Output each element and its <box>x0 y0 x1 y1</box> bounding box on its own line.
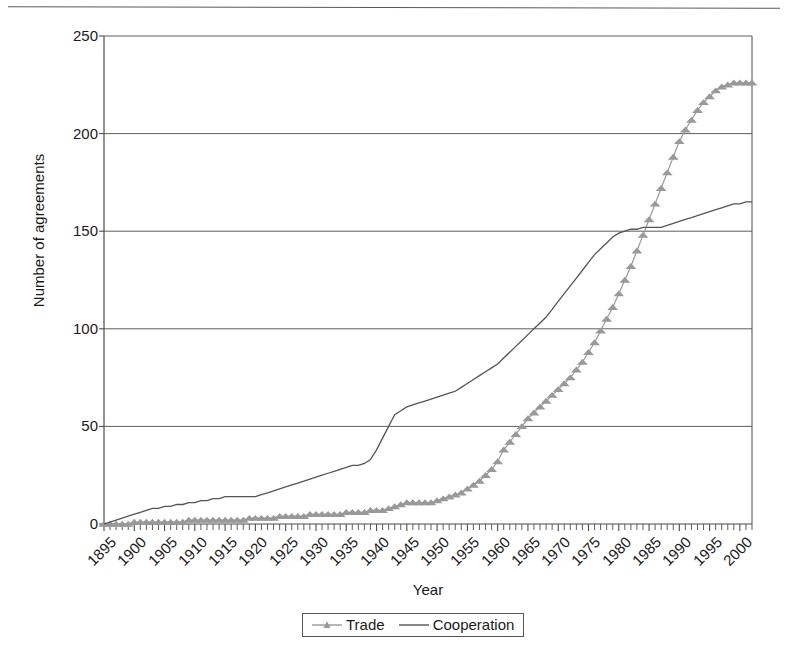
x-tick-label: 1910 <box>172 534 209 571</box>
x-tick-label: 1940 <box>354 534 391 571</box>
x-tick-label: 1995 <box>687 534 724 571</box>
x-axis-title: Year <box>104 581 752 598</box>
legend-item-cooperation[interactable]: Cooperation <box>399 617 515 632</box>
legend-key-trade-icon <box>312 619 342 631</box>
x-tick-label: 1905 <box>142 534 179 571</box>
x-tick-label: 1935 <box>323 534 360 571</box>
x-tick-label: 1960 <box>475 534 512 571</box>
x-tick-label: 1925 <box>263 534 300 571</box>
x-tick-label: 1930 <box>293 534 330 571</box>
y-axis-title: Number of agreements <box>30 131 47 331</box>
x-tick-label: 2000 <box>717 534 754 571</box>
x-tick-label: 1975 <box>566 534 603 571</box>
x-tick-label: 1950 <box>414 534 451 571</box>
x-tick-label: 1965 <box>505 534 542 571</box>
legend-key-cooperation-icon <box>399 619 429 631</box>
x-tick-label: 1970 <box>535 534 572 571</box>
x-tick-label: 1985 <box>626 534 663 571</box>
x-tick-label: 1895 <box>81 534 118 571</box>
chart-legend: Trade Cooperation <box>302 613 524 637</box>
chart-figure: 050100150200250 189519001905191019151920… <box>0 0 788 672</box>
legend-item-trade[interactable]: Trade <box>312 617 385 632</box>
x-tick-label: 1945 <box>384 534 421 571</box>
x-axis-tick-labels: 1895190019051910191519201925193019351940… <box>0 0 788 672</box>
x-tick-label: 1915 <box>202 534 239 571</box>
x-tick-label: 1990 <box>656 534 693 571</box>
x-tick-label: 1900 <box>111 534 148 571</box>
legend-label-trade: Trade <box>346 617 385 632</box>
x-tick-label: 1955 <box>444 534 481 571</box>
legend-label-cooperation: Cooperation <box>433 617 515 632</box>
x-tick-label: 1980 <box>596 534 633 571</box>
x-tick-label: 1920 <box>233 534 270 571</box>
